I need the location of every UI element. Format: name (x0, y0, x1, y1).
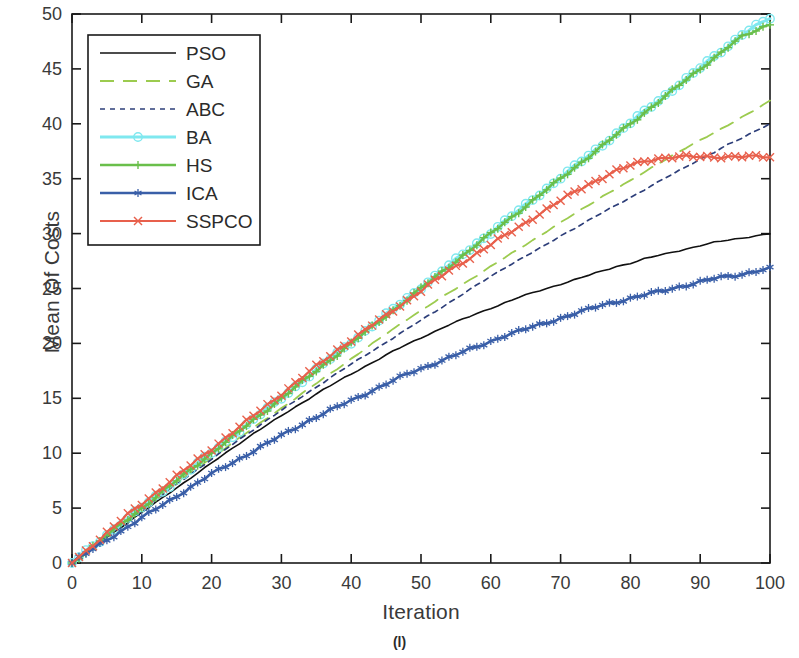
x-axis-label: Iteration (382, 600, 460, 623)
legend-label-ga: GA (186, 71, 214, 92)
y-tick-label: 45 (42, 59, 62, 79)
y-tick-label: 0 (52, 553, 62, 573)
x-tick-label: 90 (690, 573, 710, 593)
figure-caption: (l) (0, 634, 799, 650)
x-tick-label: 40 (341, 573, 361, 593)
x-tick-label: 70 (551, 573, 571, 593)
legend-label-sspco: SSPCO (186, 211, 253, 232)
y-tick-label: 10 (42, 443, 62, 463)
x-tick-label: 10 (132, 573, 152, 593)
chart-legend: PSOGAABCBAHSICASSPCO (88, 35, 260, 245)
y-tick-label: 50 (42, 4, 62, 24)
y-tick-label: 5 (52, 498, 62, 518)
series-ica (69, 263, 774, 567)
legend-label-abc: ABC (186, 99, 225, 120)
x-tick-label: 80 (620, 573, 640, 593)
y-tick-label: 40 (42, 114, 62, 134)
x-tick-label: 100 (755, 573, 785, 593)
figure-container: 0102030405060708090100 05101520253035404… (0, 0, 799, 658)
series-pso (72, 234, 770, 563)
x-axis-label-wrapper: Iteration (72, 600, 770, 624)
legend-label-ica: ICA (186, 183, 218, 204)
x-tick-label: 20 (202, 573, 222, 593)
chart-plot: 0102030405060708090100 05101520253035404… (0, 0, 799, 658)
legend-label-pso: PSO (186, 43, 226, 64)
legend-label-hs: HS (186, 155, 212, 176)
legend-label-ba: BA (186, 127, 212, 148)
y-axis-label-wrapper: Mean Of Costs (40, 152, 64, 412)
x-tick-label: 50 (411, 573, 431, 593)
x-tick-label: 60 (481, 573, 501, 593)
x-tick-label: 30 (271, 573, 291, 593)
x-tick-label: 0 (67, 573, 77, 593)
y-axis-label: Mean Of Costs (40, 211, 63, 354)
